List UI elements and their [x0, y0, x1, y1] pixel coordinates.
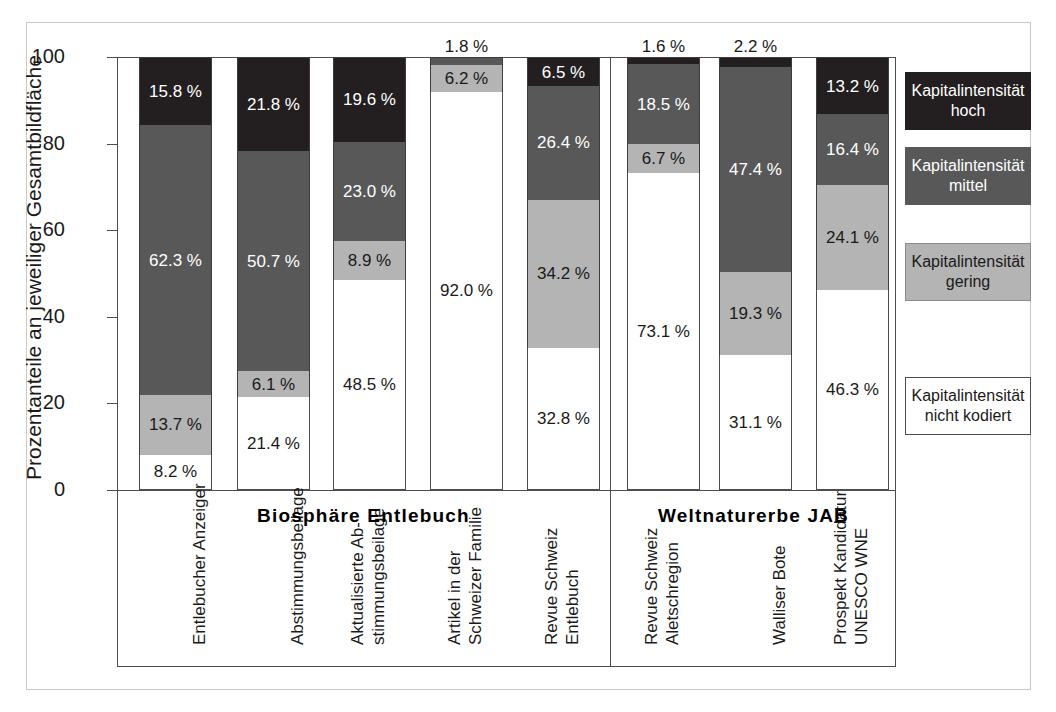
bar-segment-value: 47.4 %: [729, 161, 782, 178]
bar-5: 6.5 %26.4 %34.2 %32.8 %: [527, 57, 600, 490]
bar-segment-gering: 34.2 %: [527, 200, 600, 348]
bar-segment-value: 92.0 %: [440, 282, 493, 299]
bar-2: 21.8 %50.7 %6.1 %21.4 %: [237, 57, 310, 490]
bar-8: 13.2 %16.4 %24.1 %46.3 %: [816, 57, 889, 490]
bar-segment-mittel: 1.8 %: [430, 57, 503, 65]
bar-segment-value: 1.8 %: [445, 38, 488, 55]
bar-segment-value: 13.2 %: [826, 78, 879, 95]
bar-1: 15.8 %62.3 %13.7 %8.2 %: [139, 57, 212, 490]
bar-segment-value: 6.1 %: [252, 376, 295, 393]
y-tick-mark: [107, 57, 118, 58]
legend-item-none[interactable]: Kapitalintensität nicht kodiert: [905, 377, 1031, 435]
legend-item-hoch[interactable]: Kapitalintensität hoch: [905, 72, 1031, 130]
bar-segment-value: 26.4 %: [537, 134, 590, 151]
bar-segment-hoch: 21.8 %: [237, 57, 310, 151]
bar-segment-mittel: 62.3 %: [139, 125, 212, 395]
bar-segment-hoch: 19.6 %: [333, 57, 406, 142]
bar-segment-none: 92.0 %: [430, 92, 503, 490]
bar-segment-hoch: 13.2 %: [816, 57, 889, 114]
y-axis-title: Prozentanteile an jeweiliger Gesamtbildf…: [22, 60, 46, 480]
bar-segment-value: 32.8 %: [537, 410, 590, 427]
bar-4: 1.8 %6.2 %92.0 %: [430, 57, 503, 490]
bar-segment-none: 73.1 %: [627, 173, 700, 490]
x-axis-label-2: Abstimmungsbeilage: [287, 455, 308, 645]
bar-segment-value: 48.5 %: [343, 376, 396, 393]
bar-segment-value: 34.2 %: [537, 265, 590, 282]
bar-segment-value: 15.8 %: [149, 83, 202, 100]
bar-segment-gering: 8.9 %: [333, 241, 406, 280]
bar-segment-value: 13.7 %: [149, 416, 202, 433]
y-axis-line: [117, 57, 118, 490]
bar-segment-mittel: 23.0 %: [333, 142, 406, 242]
bar-segment-value: 62.3 %: [149, 252, 202, 269]
bar-segment-value: 21.8 %: [247, 96, 300, 113]
group-title-2: Weltnaturerbe JAB: [611, 505, 896, 527]
bar-segment-gering: 19.3 %: [719, 272, 792, 356]
bar-6: 1.6 %18.5 %6.7 %73.1 %: [627, 57, 700, 490]
bar-segment-gering: 24.1 %: [816, 185, 889, 289]
bar-segment-hoch: 2.2 %: [719, 57, 792, 67]
bar-segment-value: 6.5 %: [542, 64, 585, 81]
bar-segment-mittel: 26.4 %: [527, 86, 600, 200]
bar-segment-gering: 6.2 %: [430, 65, 503, 92]
bar-segment-mittel: 50.7 %: [237, 151, 310, 371]
y-tick-mark: [107, 317, 118, 318]
chart-legend: Kapitalintensität hochKapitalintensität …: [905, 57, 1033, 437]
bar-segment-value: 31.1 %: [729, 414, 782, 431]
x-axis-label-7: Walliser Bote: [769, 455, 790, 645]
bar-segment-value: 50.7 %: [247, 253, 300, 270]
bar-segment-mittel: 18.5 %: [627, 64, 700, 144]
bar-segment-value: 46.3 %: [826, 381, 879, 398]
y-tick: 20: [0, 403, 118, 404]
bar-segment-mittel: 47.4 %: [719, 67, 792, 272]
group-title-1: Biosphäre Entlebuch: [117, 505, 610, 527]
bar-segment-value: 18.5 %: [637, 96, 690, 113]
bar-segment-gering: 6.1 %: [237, 371, 310, 397]
bar-segment-gering: 13.7 %: [139, 395, 212, 454]
x-axis-label-8: Prospekt Kandidatur UNESCO WNE: [830, 455, 873, 645]
y-tick: 60: [0, 230, 118, 231]
y-tick-label: 0: [19, 479, 65, 499]
bar-segment-value: 2.2 %: [734, 38, 777, 55]
x-axis-label-6: Revue Schweiz Aletschregion: [641, 455, 684, 645]
y-tick: 40: [0, 317, 118, 318]
y-tick-mark: [107, 490, 118, 491]
bar-segment-value: 73.1 %: [637, 323, 690, 340]
bar-7: 2.2 %47.4 %19.3 %31.1 %: [719, 57, 792, 490]
bar-segment-value: 24.1 %: [826, 229, 879, 246]
x-axis-label-4: Artikel in der Schweizer Familie: [444, 455, 487, 645]
bar-segment-hoch: 1.6 %: [627, 57, 700, 64]
x-axis-label-5: Revue Schweiz Entlebuch: [541, 455, 584, 645]
bar-segment-value: 8.9 %: [348, 252, 391, 269]
y-tick: 100: [0, 57, 118, 58]
bar-segment-value: 21.4 %: [247, 435, 300, 452]
bar-segment-value: 6.2 %: [445, 70, 488, 87]
y-tick-mark: [107, 230, 118, 231]
legend-item-gering[interactable]: Kapitalintensität gering: [905, 243, 1031, 301]
chart-figure: 020406080100 Prozentanteile an jeweilige…: [0, 0, 1056, 712]
y-tick-mark: [107, 144, 118, 145]
bar-segment-value: 6.7 %: [642, 150, 685, 167]
y-tick: 80: [0, 144, 118, 145]
legend-item-mittel[interactable]: Kapitalintensität mittel: [905, 147, 1031, 205]
bar-segment-value: 16.4 %: [826, 141, 879, 158]
bar-segment-gering: 6.7 %: [627, 144, 700, 173]
bar-segment-value: 23.0 %: [343, 183, 396, 200]
bar-segment-hoch: 6.5 %: [527, 57, 600, 85]
y-tick: 0: [0, 490, 118, 491]
bar-3: 19.6 %23.0 %8.9 %48.5 %: [333, 57, 406, 490]
x-axis-label-3: Aktualisierte Ab- stimmungsbeilage: [347, 455, 390, 645]
bar-segment-hoch: 15.8 %: [139, 57, 212, 125]
bar-segment-value: 19.3 %: [729, 305, 782, 322]
bar-segment-value: 19.6 %: [343, 91, 396, 108]
y-tick-mark: [107, 403, 118, 404]
bar-segment-value: 1.6 %: [642, 38, 685, 55]
x-axis-label-1: Entlebucher Anzeiger: [189, 455, 210, 645]
bar-segment-mittel: 16.4 %: [816, 114, 889, 185]
group-divider: [610, 57, 611, 667]
